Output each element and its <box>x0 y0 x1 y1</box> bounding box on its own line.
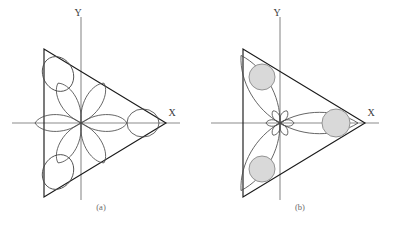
y-axis-label: Y <box>74 7 81 18</box>
panel-caption: (b) <box>295 202 305 212</box>
x-axis-label: X <box>168 107 176 118</box>
center-lobe-1 <box>280 111 288 123</box>
panel-caption: (a) <box>96 202 106 212</box>
center-lobe-5 <box>280 123 288 135</box>
panel-a: XY(a) <box>12 7 180 212</box>
orbital-diagram-svg: XY(a)XY(b) <box>0 0 398 229</box>
panel-b: XY(b) <box>211 7 379 212</box>
x-axis-label: X <box>367 107 375 118</box>
figure-container: XY(a)XY(b) <box>0 0 398 229</box>
shaded-circle-0 <box>249 64 275 90</box>
shaded-circle-1 <box>249 156 275 182</box>
shaded-circle-2 <box>322 109 350 137</box>
y-axis-label: Y <box>273 7 280 18</box>
